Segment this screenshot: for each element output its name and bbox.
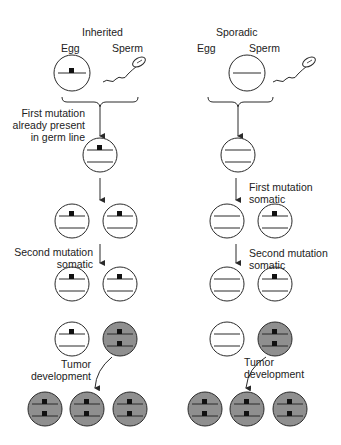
sporadic-step1-label: First mutation somatic <box>249 181 313 205</box>
inherited-tumor-cell <box>113 392 147 426</box>
inherited-tumor-cell <box>70 392 104 426</box>
inherited-title: Inherited <box>82 26 123 38</box>
sporadic-egg-label: Egg <box>197 42 216 54</box>
sporadic-step2-label: Second mutation somatic <box>249 247 328 271</box>
inherited-sperm <box>103 55 147 82</box>
sporadic-tumor-cell <box>258 322 292 356</box>
sporadic-cell <box>210 267 244 301</box>
inherited-cell <box>55 204 89 238</box>
inherited-step2-label: Second mutation somatic <box>0 246 93 270</box>
sporadic-tumor-cell <box>230 392 264 426</box>
inherited-step3-label: Tumor development <box>0 358 91 382</box>
inherited-cell <box>103 267 137 301</box>
sporadic-fusion-brace <box>208 97 273 107</box>
inherited-fusion-brace <box>62 97 138 107</box>
sporadic-zygote <box>221 138 255 172</box>
sporadic-tumor-cell <box>188 392 222 426</box>
inherited-egg-label: Egg <box>61 42 80 54</box>
sporadic-cell <box>258 204 292 238</box>
inherited-step1-label: First mutation already present in germ l… <box>0 107 85 143</box>
inherited-cell <box>103 204 137 238</box>
inherited-cell <box>55 267 89 301</box>
sporadic-sperm-label: Sperm <box>249 42 280 54</box>
sporadic-cell <box>210 204 244 238</box>
sporadic-tumor-cell <box>273 392 307 426</box>
sporadic-step3-label: Tumor development <box>244 356 304 380</box>
sporadic-sperm <box>273 55 317 82</box>
sporadic-cell <box>210 322 244 356</box>
sporadic-title: Sporadic <box>216 26 257 38</box>
sporadic-cell <box>258 267 292 301</box>
sporadic-egg-cell <box>229 55 265 91</box>
inherited-tumor-cell <box>103 322 137 356</box>
inherited-zygote <box>83 138 117 172</box>
inherited-sperm-label: Sperm <box>112 42 143 54</box>
inherited-tumor-cell <box>28 392 62 426</box>
inherited-egg-cell <box>54 55 90 91</box>
inherited-cell <box>55 322 89 356</box>
